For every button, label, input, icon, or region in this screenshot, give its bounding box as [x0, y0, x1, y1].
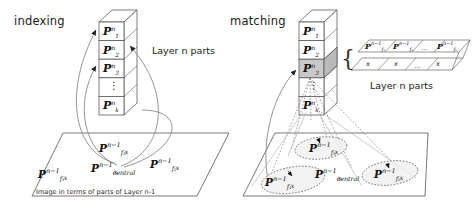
left-plane-caption: Image in terms of parts of Layer n-1 [36, 188, 155, 196]
stack-cell-label-k: Pnk [103, 100, 119, 114]
parts-table-x-k: x [436, 61, 440, 68]
stack-cell-label-1: Pn1 [103, 26, 119, 40]
plane-label-central: Pn−1centralx [91, 162, 113, 173]
stack-cell-label-2: Pn2 [103, 45, 119, 59]
panel-title-matching: matching [230, 14, 286, 28]
plane-label-f1: Pn−1f₁x [38, 168, 60, 179]
plane-label-f1: Pn−1f₁x [265, 176, 287, 187]
left-side-label-layer-n-parts: Layer n parts [152, 45, 215, 56]
parts-table-cell-ellipsis: … [421, 44, 428, 52]
plane-label-f3: Pn−1f₃x [99, 142, 121, 153]
stack-cell-label-3: Pn3 [103, 63, 119, 77]
parts-table-x-2: x [394, 61, 398, 68]
parts-table-brace: { [341, 46, 355, 71]
plane-label-f3: Pn−1f₃x [309, 142, 331, 153]
stack-cell-label-3-highlighted: Pn3 [303, 63, 319, 77]
parts-table-cell-f1: Pn−1f₁ [365, 41, 385, 53]
parts-table-cell-f2: Pn−1f₂ [393, 41, 413, 53]
plane-label-f2: Pn−1f₂x [374, 168, 396, 179]
plane-label-f2: Pn−1f₂x [150, 158, 172, 169]
stack-cell-label-1: Pn1 [303, 26, 319, 40]
left-image-plane [32, 133, 229, 196]
figure-canvas: indexing matching Layer n parts Layer n … [0, 0, 476, 211]
stack-cell-label-2: Pn2 [303, 45, 319, 59]
right-side-label-layer-n-parts: Layer n parts [370, 80, 433, 91]
diagram-vector-layer [0, 0, 476, 211]
stack-cell-label-ellipsis: ⋮ [109, 80, 119, 91]
stack-cell-label-k: Pnk [303, 100, 319, 114]
parts-table-x-ellipsis: … [414, 62, 421, 70]
plane-label-central: Pn−1centralx [315, 168, 337, 179]
stack-cell-label-ellipsis: ⋮ [309, 80, 319, 91]
parts-table-x-1: x [366, 61, 370, 68]
panel-title-indexing: indexing [14, 14, 65, 28]
parts-table-cell-fk: Pn−1fₖ [437, 41, 457, 53]
